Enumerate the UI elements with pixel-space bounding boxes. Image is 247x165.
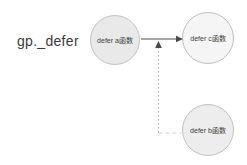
- node-defer-c-label: defer c函数: [190, 33, 225, 43]
- node-defer-a-label: defer a函数: [97, 35, 133, 45]
- root-pointer-label: gp._defer: [17, 33, 79, 49]
- node-defer-b-label: defer b函数: [190, 125, 226, 135]
- node-defer-c: defer c函数: [182, 12, 234, 64]
- defer-linked-list-diagram: gp._defer defer a函数 defer c函数 defer b函数: [0, 0, 247, 165]
- node-defer-b: defer b函数: [182, 104, 234, 156]
- node-defer-a: defer a函数: [90, 15, 140, 65]
- arrowhead-up-icon: [155, 41, 162, 48]
